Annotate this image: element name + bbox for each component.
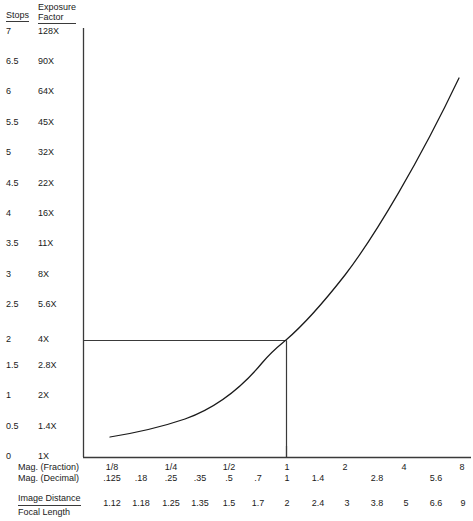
x-tick-mag-fraction: 1/2 [223, 462, 236, 473]
x-tick-image-distance-ratio: 5 [403, 498, 408, 509]
x-tick-mag-fraction: 1 [284, 462, 289, 473]
exposure-curve [110, 78, 459, 437]
x-tick-mag-decimal: .125 [103, 473, 121, 484]
x-tick-image-distance-ratio: 6.6 [430, 498, 443, 509]
plot-area [0, 0, 473, 521]
image-distance-label: Image Distance [18, 493, 81, 506]
x-tick-mag-decimal: .25 [165, 473, 178, 484]
x-tick-mag-fraction: 2 [342, 462, 347, 473]
x-tick-mag-fraction: 8 [459, 462, 464, 473]
x-tick-image-distance-ratio: 3 [344, 498, 349, 509]
x-tick-image-distance-ratio: 1.5 [223, 498, 236, 509]
exposure-factor-chart: Stops Exposure Factor 7 128X 6.5 90X 6 6… [0, 0, 473, 521]
x-tick-mag-fraction: 4 [401, 462, 406, 473]
x-tick-image-distance-ratio: 1.7 [252, 498, 265, 509]
x-tick-image-distance-ratio: 2 [284, 498, 289, 509]
x-tick-image-distance-ratio: 1.25 [162, 498, 180, 509]
x-tick-image-distance-ratio: 1.18 [132, 498, 150, 509]
x-tick-mag-decimal: .35 [194, 473, 207, 484]
x-tick-image-distance-ratio: 9 [460, 498, 465, 509]
x-tick-mag-fraction: 1/4 [165, 462, 178, 473]
x-tick-image-distance-ratio: 3.8 [371, 498, 384, 509]
x-tick-image-distance-ratio: 2.4 [312, 498, 325, 509]
x-tick-mag-fraction: 1/8 [106, 462, 119, 473]
x-tick-mag-decimal: .5 [225, 473, 233, 484]
x-tick-mag-decimal: 1.4 [312, 473, 325, 484]
x-tick-mag-decimal: .18 [135, 473, 148, 484]
x-axis-label-image-distance-focal-length: Image Distance Focal Length [18, 493, 81, 518]
x-tick-mag-decimal: 5.6 [430, 473, 443, 484]
x-tick-image-distance-ratio: 1.35 [191, 498, 209, 509]
x-axis-label-mag-decimal: Mag. (Decimal) [18, 473, 79, 484]
x-tick-mag-decimal: .7 [254, 473, 262, 484]
focal-length-label: Focal Length [18, 506, 81, 518]
x-axis-label-mag-fraction: Mag. (Fraction) [18, 462, 79, 473]
x-tick-mag-decimal: 1 [284, 473, 289, 484]
x-tick-image-distance-ratio: 1.12 [103, 498, 121, 509]
x-tick-mag-decimal: 2.8 [371, 473, 384, 484]
